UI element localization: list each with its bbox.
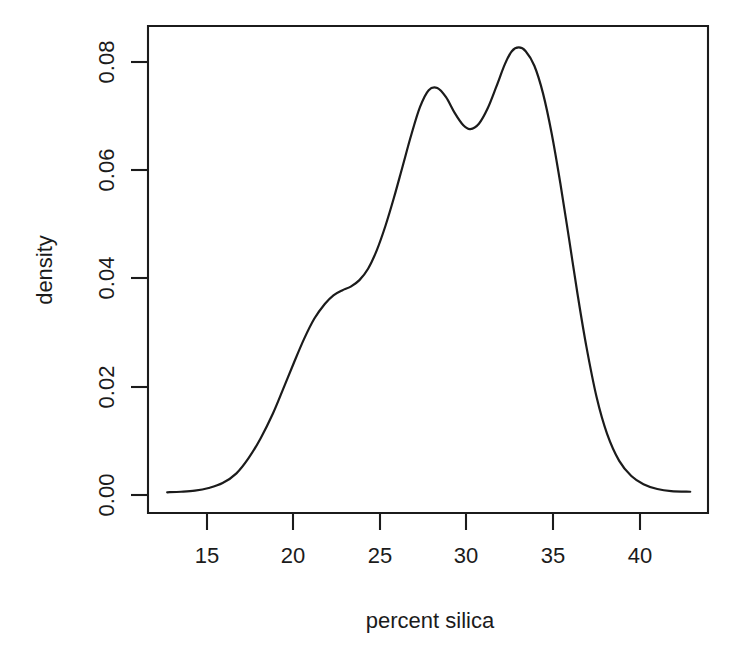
y-tick-label-3: 0.06 — [94, 149, 119, 192]
x-tick-label-4: 35 — [541, 543, 565, 568]
y-tick-label-0: 0.00 — [94, 474, 119, 517]
x-tick-label-0: 15 — [195, 543, 219, 568]
y-tick-label-1: 0.02 — [94, 366, 119, 409]
density-plot-figure: 0.00 0.02 0.04 0.06 0.08 15 20 25 30 35 … — [0, 0, 736, 656]
x-tick-label-5: 40 — [628, 543, 652, 568]
x-tick-label-2: 25 — [368, 543, 392, 568]
y-tick-label-4: 0.08 — [94, 41, 119, 84]
x-tick-label-3: 30 — [454, 543, 478, 568]
x-axis-title: percent silica — [366, 608, 495, 633]
y-tick-label-2: 0.04 — [94, 257, 119, 300]
x-tick-label-1: 20 — [281, 543, 305, 568]
plot-canvas: 0.00 0.02 0.04 0.06 0.08 15 20 25 30 35 … — [0, 0, 736, 656]
y-axis-title: density — [32, 235, 57, 305]
